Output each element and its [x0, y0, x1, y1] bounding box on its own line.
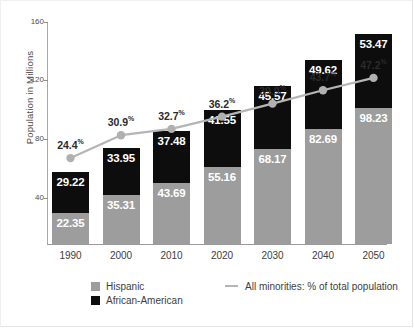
- bar-segment-african-american[interactable]: 41.55: [204, 110, 241, 168]
- bar-segment-african-american[interactable]: 29.22: [52, 172, 89, 213]
- y-axis-title: Population in Millions: [24, 23, 35, 173]
- bar-group[interactable]: 49.6282.69: [305, 60, 342, 244]
- x-tick-label: 2010: [144, 250, 200, 261]
- legend: Hispanic African-American: [91, 279, 183, 307]
- bar-segment-hispanic[interactable]: 68.17: [254, 149, 291, 244]
- percent-data-label: 36.2%: [199, 97, 245, 110]
- legend-item-hispanic[interactable]: Hispanic: [91, 279, 183, 293]
- percent-data-label: 47.2%: [351, 58, 397, 71]
- bar-value-label-hispanic: 68.17: [254, 153, 291, 165]
- legend-label-all-minorities: All minorities: % of total population: [245, 281, 398, 292]
- bar-group[interactable]: 29.2222.35: [52, 172, 89, 244]
- y-tick-label-40: 40: [24, 194, 44, 202]
- legend-swatch-line: [225, 285, 238, 288]
- bar-segment-hispanic[interactable]: 22.35: [52, 213, 89, 244]
- x-tick-label: 2040: [295, 250, 351, 261]
- population-stacked-bar-chart: Population in Millions 160 120 80 40 29.…: [0, 0, 414, 328]
- bar-segment-hispanic[interactable]: 43.69: [153, 183, 190, 244]
- percent-data-label: 32.7%: [149, 109, 195, 122]
- percent-data-label: 39.9%: [250, 84, 296, 97]
- percent-data-label: 43.7%: [300, 70, 346, 83]
- bar-segment-african-american[interactable]: 33.95: [103, 148, 140, 195]
- legend-swatch-hispanic: [91, 282, 100, 291]
- legend-label-hispanic: Hispanic: [106, 281, 144, 292]
- bar-value-label-hispanic: 98.23: [355, 112, 392, 124]
- x-tick-label: 2000: [93, 250, 149, 261]
- x-tick-label: 1990: [43, 250, 99, 261]
- bar-value-label-hispanic: 22.35: [52, 217, 89, 229]
- y-tick-label-80: 80: [24, 135, 44, 143]
- bar-segment-hispanic[interactable]: 82.69: [305, 129, 342, 244]
- bar-group[interactable]: 33.9535.31: [103, 148, 140, 244]
- legend-item-african-american[interactable]: African-American: [91, 293, 183, 307]
- bar-segment-hispanic[interactable]: 98.23: [355, 108, 392, 244]
- legend-item-all-minorities[interactable]: All minorities: % of total population: [225, 279, 398, 293]
- legend-swatch-african-american: [91, 296, 100, 305]
- bar-segment-hispanic[interactable]: 35.31: [103, 195, 140, 244]
- bar-value-label-hispanic: 82.69: [305, 133, 342, 145]
- x-axis-line: [47, 244, 387, 245]
- x-tick-label: 2030: [245, 250, 301, 261]
- bar-value-label-african-american: 37.48: [153, 135, 190, 147]
- bar-value-label-hispanic: 35.31: [103, 199, 140, 211]
- bar-group[interactable]: 45.5768.17: [254, 86, 291, 244]
- bar-group[interactable]: 41.5555.16: [204, 110, 241, 244]
- legend-label-african-american: African-American: [106, 295, 183, 306]
- bar-segment-hispanic[interactable]: 55.16: [204, 167, 241, 244]
- y-tick-label-160: 160: [24, 18, 44, 26]
- x-tick-label: 2050: [346, 250, 402, 261]
- percent-data-label: 30.9%: [98, 115, 144, 128]
- bar-value-label-african-american: 29.22: [52, 176, 89, 188]
- bar-value-label-african-american: 41.55: [204, 114, 241, 126]
- x-tick-label: 2020: [194, 250, 250, 261]
- bar-value-label-hispanic: 43.69: [153, 187, 190, 199]
- bar-segment-african-american[interactable]: 53.47: [355, 34, 392, 108]
- bar-group[interactable]: 37.4843.69: [153, 131, 190, 244]
- bar-value-label-african-american: 53.47: [355, 38, 392, 50]
- bar-segment-african-american[interactable]: 37.48: [153, 131, 190, 183]
- percent-data-label: 24.4%: [48, 138, 94, 151]
- bar-value-label-hispanic: 55.16: [204, 171, 241, 183]
- y-tick-label-120: 120: [24, 76, 44, 84]
- bar-value-label-african-american: 33.95: [103, 152, 140, 164]
